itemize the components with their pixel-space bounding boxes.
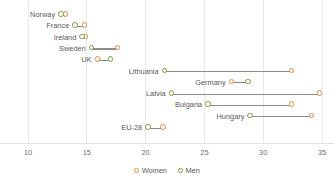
marker-women[interactable]: [289, 68, 295, 74]
chart-row: Germany: [0, 77, 334, 89]
marker-men[interactable]: [108, 56, 114, 62]
row-label-eu-28: EU-28: [121, 122, 142, 134]
marker-women[interactable]: [115, 45, 121, 51]
row-label-france: France: [46, 20, 69, 32]
marker-men[interactable]: [145, 124, 151, 130]
chart-row: Lithuania: [0, 66, 334, 78]
marker-women[interactable]: [95, 56, 101, 62]
legend-label-women: Women: [142, 166, 167, 175]
chart-row: Hungary: [0, 111, 334, 123]
legend-label-men: Men: [186, 166, 200, 175]
row-connector: [92, 48, 118, 49]
marker-men[interactable]: [58, 11, 64, 17]
marker-men[interactable]: [79, 34, 85, 40]
marker-men[interactable]: [162, 68, 168, 74]
marker-women[interactable]: [82, 22, 88, 28]
chart-legend: Women Men: [0, 166, 334, 175]
marker-men[interactable]: [72, 22, 78, 28]
x-axis-line: [0, 143, 334, 144]
row-connector: [208, 105, 291, 106]
marker-women[interactable]: [229, 79, 235, 85]
marker-women[interactable]: [160, 124, 166, 130]
row-label-norway: Norway: [30, 9, 55, 21]
chart-row: Ireland: [0, 32, 334, 44]
marker-men[interactable]: [205, 101, 211, 107]
chart-row: Sweden: [0, 43, 334, 55]
x-tick-label: 25: [200, 148, 208, 157]
plot-area: NorwayFranceIrelandSwedenUKLithuaniaGerm…: [0, 0, 334, 143]
row-label-sweden: Sweden: [59, 43, 86, 55]
chart-row: EU-28: [0, 122, 334, 134]
chart-row: France: [0, 20, 334, 32]
x-tick-label: 35: [318, 148, 326, 157]
chart-row: Norway: [0, 9, 334, 21]
row-connector: [250, 116, 311, 117]
row-connector: [171, 94, 319, 95]
row-label-bulgaria: Bulgaria: [175, 99, 202, 111]
x-tick-label: 30: [259, 148, 267, 157]
row-connector: [164, 71, 291, 72]
marker-women[interactable]: [289, 101, 295, 107]
x-tick-label: 20: [141, 148, 149, 157]
legend-swatch-men-icon: [178, 168, 183, 173]
row-label-uk: UK: [81, 54, 91, 66]
x-tick-label: 15: [83, 148, 91, 157]
chart-row: Bulgaria: [0, 99, 334, 111]
row-label-lithuania: Lithuania: [129, 66, 159, 78]
row-label-hungary: Hungary: [217, 111, 245, 123]
marker-men[interactable]: [245, 79, 251, 85]
marker-women[interactable]: [317, 90, 323, 96]
x-tick-label: 10: [24, 148, 32, 157]
row-label-germany: Germany: [195, 77, 225, 89]
row-label-latvia: Latvia: [146, 88, 166, 100]
chart-row: Latvia: [0, 88, 334, 100]
marker-women[interactable]: [309, 113, 315, 119]
legend-swatch-women-icon: [134, 168, 139, 173]
row-label-ireland: Ireland: [54, 32, 77, 44]
chart-row: UK: [0, 54, 334, 66]
marker-men[interactable]: [169, 90, 175, 96]
legend-item-women[interactable]: Women: [134, 166, 167, 175]
dumbbell-chart: NorwayFranceIrelandSwedenUKLithuaniaGerm…: [0, 0, 334, 186]
marker-men[interactable]: [247, 113, 253, 119]
legend-item-men[interactable]: Men: [178, 166, 200, 175]
marker-men[interactable]: [89, 45, 95, 51]
